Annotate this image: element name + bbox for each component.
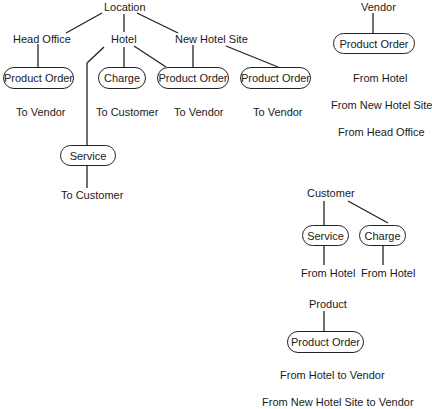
- hotel-service-box: Service: [60, 145, 116, 166]
- hotel-order-note: To Vendor: [174, 106, 224, 119]
- new-hotel-site-label: New Hotel Site: [175, 33, 248, 46]
- product-label: Product: [309, 298, 347, 311]
- product-note-2: From New Hotel Site to Vendor: [262, 396, 414, 409]
- vendor-product-order-box: Product Order: [333, 33, 415, 54]
- customer-charge-note: From Hotel: [361, 267, 415, 280]
- vendor-label: Vendor: [361, 1, 396, 14]
- hotel-label: Hotel: [111, 33, 137, 46]
- hotel-charge-note: To Customer: [96, 106, 158, 119]
- hotel-service-note: To Customer: [61, 189, 123, 202]
- hotel-charge-box: Charge: [98, 67, 146, 89]
- head-office-label: Head Office: [13, 33, 71, 46]
- new-hotel-site-note: To Vendor: [253, 106, 303, 119]
- vendor-note-3: From Head Office: [338, 126, 425, 139]
- vendor-note-1: From Hotel: [353, 72, 407, 85]
- product-note-1: From Hotel to Vendor: [280, 369, 385, 382]
- vendor-note-2: From New Hotel Site: [331, 99, 432, 112]
- customer-service-note: From Hotel: [301, 267, 355, 280]
- customer-service-box: Service: [302, 225, 349, 246]
- customer-charge-box: Charge: [359, 225, 406, 246]
- customer-label: Customer: [307, 187, 355, 200]
- head-office-note: To Vendor: [16, 106, 66, 119]
- head-office-product-order-box: Product Order: [3, 67, 74, 89]
- new-hotel-site-product-order-box: Product Order: [240, 67, 311, 89]
- location-label: Location: [104, 1, 146, 14]
- hotel-product-order-box: Product Order: [157, 67, 229, 89]
- product-product-order-box: Product Order: [287, 331, 364, 353]
